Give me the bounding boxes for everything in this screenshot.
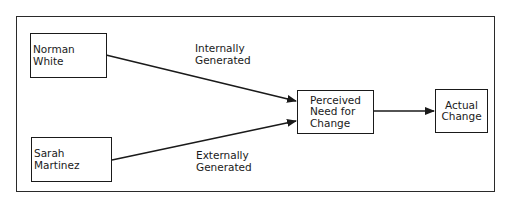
edge-label-internal-2: Generated: [195, 55, 251, 67]
node-norman-white-label: Norman White: [33, 44, 106, 67]
edge-label-external: Externally Generated: [196, 150, 252, 173]
edge-label-external-1: Externally: [196, 150, 252, 162]
edge-label-internal-1: Internally: [195, 43, 251, 55]
edge-label-external-2: Generated: [196, 162, 252, 174]
node-sarah-martinez-label: Sarah Martinez: [34, 148, 111, 171]
node-perceived-need: Perceived Need for Change: [297, 90, 374, 134]
edge-label-internal: Internally Generated: [195, 43, 251, 66]
node-actual-change: Actual Change: [435, 89, 488, 133]
node-sarah-martinez: Sarah Martinez: [31, 137, 112, 182]
node-norman-white: Norman White: [30, 33, 107, 78]
node-actual-line-2: Change: [441, 111, 481, 123]
node-perceived-line-3: Change: [310, 118, 361, 130]
